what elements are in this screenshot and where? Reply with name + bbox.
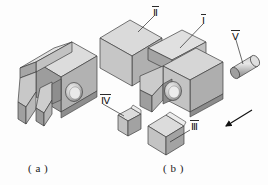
part-label-II: Ⅱ xyxy=(152,6,159,18)
part-I-hole-bore xyxy=(169,86,180,98)
part-label-V: Ⅴ xyxy=(231,30,240,42)
caption-a: ( a ) xyxy=(28,162,48,174)
part-label-III: Ⅲ xyxy=(190,120,199,132)
part-IV-wedge xyxy=(118,105,141,136)
assembled-part-group xyxy=(18,42,97,126)
leader-line-V xyxy=(236,40,243,64)
part-label-IV: Ⅳ xyxy=(100,94,111,106)
assembly-direction-arrow xyxy=(226,110,252,126)
figure-container: Ⅰ Ⅱ Ⅲ Ⅳ Ⅴ ( a ) ( b ) xyxy=(0,0,268,185)
caption-b: ( b ) xyxy=(163,162,184,174)
part-III-wedge xyxy=(148,112,186,155)
figure-drawing xyxy=(0,0,268,185)
assembly-hole-bore xyxy=(70,87,81,99)
assembly-left-wedge xyxy=(18,72,36,124)
part-label-I: Ⅰ xyxy=(201,14,206,26)
part-V-cylinder xyxy=(229,54,262,80)
